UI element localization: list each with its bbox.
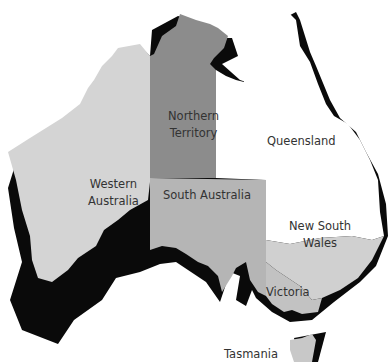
label-western-australia: Western Australia <box>88 176 139 210</box>
label-northern-territory-line2: Territory <box>168 125 219 142</box>
label-south-australia-line1: South Australia <box>163 187 251 204</box>
label-new-south-wales-line2: Wales <box>289 235 351 252</box>
label-northern-territory: Northern Territory <box>168 108 219 142</box>
label-queensland: Queensland <box>267 133 336 150</box>
label-new-south-wales-line1: New South <box>289 218 351 235</box>
label-western-australia-line1: Western <box>88 176 139 193</box>
label-new-south-wales: New South Wales <box>289 218 351 252</box>
label-western-australia-line2: Australia <box>88 193 139 210</box>
label-tasmania: Tasmania <box>224 346 278 362</box>
label-south-australia: South Australia <box>163 187 251 204</box>
australia-map <box>0 0 389 362</box>
label-tasmania-line1: Tasmania <box>224 346 278 362</box>
label-victoria: Victoria <box>266 284 310 301</box>
label-queensland-line1: Queensland <box>267 133 336 150</box>
region-tasmania[interactable] <box>290 334 316 362</box>
label-victoria-line1: Victoria <box>266 284 310 301</box>
label-northern-territory-line1: Northern <box>168 108 219 125</box>
